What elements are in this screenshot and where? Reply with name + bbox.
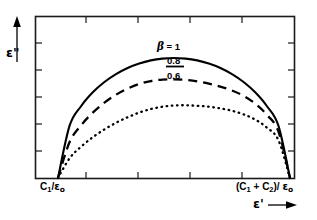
curve-label-beta-1: β = 1 (157, 41, 180, 52)
x-axis-arrow (268, 201, 297, 208)
curve-label-beta-0-6: 0.6 (167, 71, 180, 81)
cap-left-sub2: o (60, 185, 65, 194)
curve-beta-0-8 (58, 79, 290, 178)
right-axis-ticks (288, 43, 294, 151)
cap-right-plus: + C (251, 181, 270, 192)
x-axis-label: ε' (253, 198, 264, 211)
top-axis-ticks (86, 17, 242, 23)
x-arrow-head (286, 201, 297, 208)
x-axis-label-text: ε' (253, 196, 264, 211)
y-axis-label-text: ε" (6, 45, 19, 60)
y-axis-label: ε" (6, 47, 19, 60)
left-axis-ticks (36, 43, 42, 151)
bottom-axis-ticks (86, 172, 242, 178)
curve-beta-0-6 (58, 105, 290, 178)
cap-right-numerator: (C (236, 181, 247, 192)
cole-cole-figure: ε" ε' C1/εo (C1 + C2)/ εo β = 1 0.8 0.6 (0, 0, 317, 220)
beta-value: 1 (175, 41, 180, 52)
x-tick-caption-right: (C1 + C2)/ εo (236, 182, 293, 194)
cap-right-sub3: o (288, 185, 293, 194)
beta-equals: = (164, 41, 175, 52)
x-tick-caption-left: C1/εo (40, 182, 65, 194)
curve-label-beta-0-8: 0.8 (167, 56, 180, 66)
beta-symbol: β (157, 40, 164, 52)
y-arrow-head (13, 16, 21, 27)
